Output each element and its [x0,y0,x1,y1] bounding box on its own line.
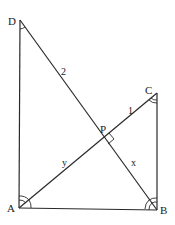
angle-arc-B-outer-2 [149,198,157,200]
point-label-B: B [160,204,167,216]
point-label-C: C [145,84,152,96]
segment-AB [19,208,157,210]
segment-DA [19,20,20,208]
point-label-A: A [7,202,15,214]
angle-arc-A-outer-2 [29,200,31,208]
segment-label-PC: 1 [128,105,133,116]
segment-AC [19,93,157,208]
segment-label-PB: x [131,157,136,168]
geometry-diagram: D A B C P 2 1 y x [0,0,175,225]
angle-arc-B-inner-2 [152,202,157,203]
segment-DB [20,20,157,210]
point-label-D: D [8,15,16,27]
angle-arc-A-outer-1 [19,196,29,200]
point-label-P: P [100,123,106,135]
segment-label-AP: y [62,157,67,168]
angle-arc-C-inner [151,98,157,100]
segment-label-DP: 2 [61,66,66,77]
angle-arc-D [20,27,25,29]
angle-arc-B-outer [145,200,149,209]
angle-arc-B-inner [149,203,152,210]
